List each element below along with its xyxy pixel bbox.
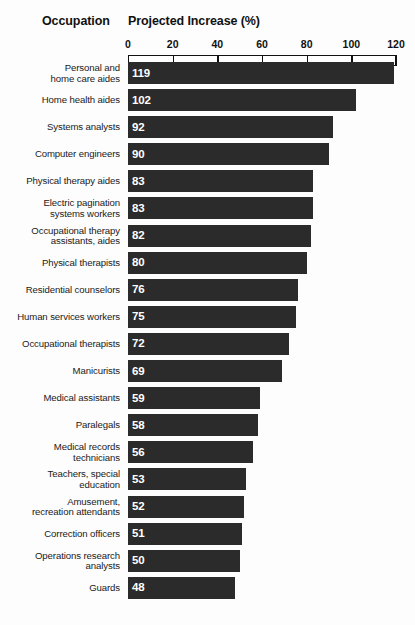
bar-value-label: 80 <box>132 255 144 269</box>
chart-row: Physical therapists80 <box>0 252 415 279</box>
category-label: Residential counselors <box>2 285 120 296</box>
bar: 53 <box>128 468 246 490</box>
bar-value-label: 58 <box>132 418 144 432</box>
category-label: Guards <box>2 583 120 594</box>
bar: 82 <box>128 225 311 247</box>
category-label: Correction officers <box>2 529 120 540</box>
bar-track: 102 <box>128 89 396 111</box>
bar-value-label: 52 <box>132 499 144 513</box>
bar-value-label: 92 <box>132 120 144 134</box>
bar-track: 53 <box>128 468 396 490</box>
bar: 92 <box>128 116 333 138</box>
chart-row: Human services workers75 <box>0 306 415 333</box>
x-axis-tick-80: 80 <box>301 38 313 50</box>
bar: 69 <box>128 360 282 382</box>
x-axis-tick-120: 120 <box>387 38 405 50</box>
bar-value-label: 75 <box>132 309 144 323</box>
x-axis-tick-40: 40 <box>211 38 223 50</box>
chart-row: Residential counselors76 <box>0 279 415 306</box>
bar-value-label: 48 <box>132 580 144 594</box>
category-label: Medical assistants <box>2 393 120 404</box>
occupation-column-header: Occupation <box>42 14 110 28</box>
bar-track: 56 <box>128 441 396 463</box>
chart-row: Electric paginationsystems workers83 <box>0 197 415 224</box>
bar-value-label: 83 <box>132 201 144 215</box>
chart-row: Occupational therapists72 <box>0 333 415 360</box>
bar-value-label: 119 <box>132 66 150 80</box>
bar-track: 82 <box>128 225 396 247</box>
bar: 90 <box>128 143 329 165</box>
bar: 48 <box>128 577 235 599</box>
bar-track: 80 <box>128 252 396 274</box>
bar-value-label: 83 <box>132 174 144 188</box>
bar-track: 52 <box>128 496 396 518</box>
bar: 52 <box>128 496 244 518</box>
chart-row: Paralegals58 <box>0 414 415 441</box>
bar-track: 59 <box>128 387 396 409</box>
x-axis-tick-0: 0 <box>125 38 131 50</box>
chart-row: Personal andhome care aides119 <box>0 62 415 89</box>
chart-row: Teachers, specialeducation53 <box>0 468 415 495</box>
bar-track: 51 <box>128 523 396 545</box>
category-label: Computer engineers <box>2 149 120 160</box>
bar: 56 <box>128 441 253 463</box>
chart-row: Guards48 <box>0 577 415 604</box>
chart-row: Manicurists69 <box>0 360 415 387</box>
bar: 83 <box>128 197 313 219</box>
category-label: Manicurists <box>2 366 120 377</box>
bar-value-label: 102 <box>132 93 151 107</box>
category-label: Physical therapy aides <box>2 176 120 187</box>
category-label: Human services workers <box>2 312 120 323</box>
bar-value-label: 76 <box>132 282 144 296</box>
chart-row: Operations researchanalysts50 <box>0 550 415 577</box>
projected-increase-column-header: Projected Increase (%) <box>128 14 260 28</box>
bar: 80 <box>128 252 307 274</box>
category-label: Medical recordstechnicians <box>2 442 120 463</box>
category-label: Physical therapists <box>2 258 120 269</box>
chart-row: Amusement,recreation attendants52 <box>0 496 415 523</box>
bar-track: 119 <box>128 62 396 84</box>
category-label: Occupational therapyassistants, aides <box>2 226 120 247</box>
chart-row: Systems analysts92 <box>0 116 415 143</box>
bar-value-label: 82 <box>132 228 144 242</box>
category-label: Paralegals <box>2 420 120 431</box>
bar-track: 75 <box>128 306 396 328</box>
bar-track: 83 <box>128 197 396 219</box>
bar: 59 <box>128 387 260 409</box>
category-label: Amusement,recreation attendants <box>2 497 120 518</box>
bar-value-label: 59 <box>132 391 144 405</box>
bar-track: 58 <box>128 414 396 436</box>
bar: 83 <box>128 170 313 192</box>
bar-value-label: 50 <box>132 553 144 567</box>
bar: 58 <box>128 414 258 436</box>
x-axis-tick-60: 60 <box>256 38 268 50</box>
bar-track: 83 <box>128 170 396 192</box>
bar: 76 <box>128 279 298 301</box>
bar: 75 <box>128 306 296 328</box>
bar-track: 90 <box>128 143 396 165</box>
x-axis-tick-20: 20 <box>167 38 179 50</box>
category-label: Home health aides <box>2 95 120 106</box>
chart-plot-area: Personal andhome care aides119Home healt… <box>0 62 415 604</box>
category-label: Operations researchanalysts <box>2 551 120 572</box>
chart-row: Medical recordstechnicians56 <box>0 441 415 468</box>
bar-value-label: 51 <box>132 526 144 540</box>
chart-row: Occupational therapyassistants, aides82 <box>0 225 415 252</box>
category-label: Occupational therapists <box>2 339 120 350</box>
chart-row: Home health aides102 <box>0 89 415 116</box>
category-label: Systems analysts <box>2 122 120 133</box>
bar: 119 <box>128 62 394 84</box>
chart-row: Computer engineers90 <box>0 143 415 170</box>
bar-track: 76 <box>128 279 396 301</box>
bar: 102 <box>128 89 356 111</box>
bar-value-label: 90 <box>132 147 144 161</box>
chart-row: Physical therapy aides83 <box>0 170 415 197</box>
bar-track: 48 <box>128 577 396 599</box>
category-label: Electric paginationsystems workers <box>2 198 120 219</box>
bar-track: 72 <box>128 333 396 355</box>
category-label: Teachers, specialeducation <box>2 469 120 490</box>
bar: 50 <box>128 550 240 572</box>
bar-value-label: 72 <box>132 336 144 350</box>
bar: 72 <box>128 333 289 355</box>
bar: 51 <box>128 523 242 545</box>
